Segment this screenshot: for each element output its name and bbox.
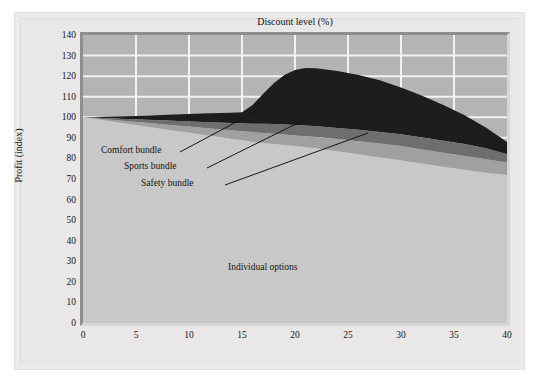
x-tick-label: 5 (121, 330, 151, 340)
y-tick-label: 140 (50, 30, 76, 40)
y-tick-label: 10 (50, 297, 76, 307)
annotation-individual-options: Individual options (228, 262, 297, 272)
y-tick-label: 0 (50, 318, 76, 328)
y-tick-label: 20 (50, 277, 76, 287)
area-bands (83, 68, 507, 323)
x-tick-label: 35 (439, 330, 469, 340)
y-axis-title: Profit (index) (13, 81, 24, 231)
y-tick-label: 100 (50, 112, 76, 122)
x-tick-label: 10 (174, 330, 204, 340)
x-tick-label: 40 (492, 330, 522, 340)
x-tick-label: 15 (227, 330, 257, 340)
y-tick-label: 80 (50, 153, 76, 163)
y-tick-label: 130 (50, 51, 76, 61)
y-tick-label: 120 (50, 71, 76, 81)
annotation-safety-bundle: Safety bundle (141, 178, 194, 188)
x-axis-title: Discount level (%) (80, 16, 510, 27)
annotation-sports-bundle: Sports bundle (124, 161, 177, 171)
y-tick-label: 60 (50, 195, 76, 205)
x-tick-label: 25 (333, 330, 363, 340)
x-tick-label: 0 (68, 330, 98, 340)
chart-figure: 0102030405060708090100110120130140 Profi… (0, 0, 539, 384)
y-tick-label: 110 (50, 92, 76, 102)
x-axis: 0510152025303540 (0, 330, 539, 370)
y-tick-label: 30 (50, 256, 76, 266)
y-tick-label: 90 (50, 133, 76, 143)
y-tick-label: 50 (50, 215, 76, 225)
y-axis: 0102030405060708090100110120130140 (46, 0, 76, 384)
x-tick-label: 30 (386, 330, 416, 340)
annotation-comfort-bundle: Comfort bundle (101, 145, 161, 155)
x-tick-label: 20 (280, 330, 310, 340)
y-tick-label: 70 (50, 174, 76, 184)
y-tick-label: 40 (50, 236, 76, 246)
